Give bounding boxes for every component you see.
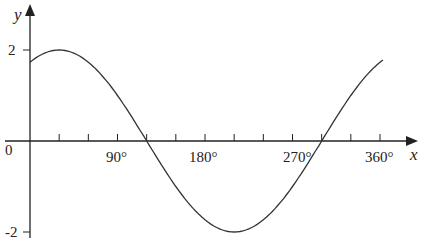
x-tick-label-180: 180°	[189, 149, 218, 165]
y-axis-arrow-icon	[25, 4, 35, 16]
y-tick-label-neg2: -2	[5, 224, 18, 240]
x-axis-label: x	[409, 145, 418, 164]
y-axis-label: y	[12, 5, 22, 24]
y-tick-label-2: 2	[8, 42, 16, 58]
x-ticks	[59, 134, 380, 141]
x-tick-label-270: 270°	[283, 149, 312, 165]
x-tick-label-360: 360°	[365, 149, 394, 165]
origin-label: 0	[5, 142, 13, 158]
chart: y x 0 2 -2 90° 180° 270° 360°	[0, 0, 425, 245]
x-tick-label-90: 90°	[106, 149, 127, 165]
